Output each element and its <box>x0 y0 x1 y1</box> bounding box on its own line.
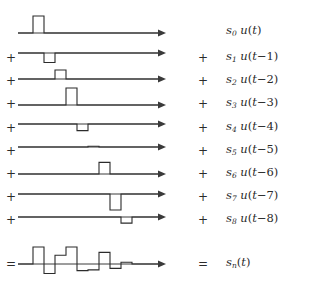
term-func-3: u <box>240 95 247 109</box>
right-operator-sum: = <box>196 258 210 270</box>
term-index-3: 3 <box>232 101 237 110</box>
term-shift-1: 1 <box>267 49 274 63</box>
waveform-row-0 <box>18 8 166 40</box>
pulse-row-8 <box>18 217 158 223</box>
term-label-8: s8 u(t−8) <box>226 213 278 225</box>
left-operator-row-4: + <box>4 122 18 134</box>
term-index-4: 4 <box>232 125 237 134</box>
axis-arrowhead-row-5 <box>158 144 166 151</box>
axis-arrowhead-row-6 <box>158 171 166 178</box>
waveform-row-8 <box>18 211 166 231</box>
axis-arrowhead-row-0 <box>158 30 166 37</box>
right-operator-row-5: + <box>196 145 210 157</box>
term-func-0: u <box>240 23 247 37</box>
right-operator-row-1: + <box>196 52 210 64</box>
term-label-0: s0 u(t) <box>226 25 261 37</box>
right-operator-row-7: + <box>196 191 210 203</box>
term-label-1: s1 u(t−1) <box>226 51 278 63</box>
right-operator-row-8: + <box>196 214 210 226</box>
pulse-row-2 <box>18 70 158 79</box>
left-operator-row-6: + <box>4 168 18 180</box>
term-func-5: u <box>240 142 247 156</box>
term-func-1: u <box>240 49 247 63</box>
term-label-5: s5 u(t−5) <box>226 144 278 156</box>
term-shift-4: 4 <box>267 119 274 133</box>
left-operator-row-1: + <box>4 52 18 64</box>
term-shift-6: 6 <box>267 165 274 179</box>
right-operator-row-4: + <box>196 122 210 134</box>
left-operator-row-5: + <box>4 145 18 157</box>
term-shift-8: 8 <box>267 211 274 225</box>
term-func-2: u <box>240 72 247 86</box>
term-label-7: s7 u(t−7) <box>226 190 278 202</box>
term-index-1: 1 <box>232 55 237 64</box>
term-shift-3: 3 <box>267 95 274 109</box>
pulse-row-6 <box>18 162 158 174</box>
term-label-3: s3 u(t−3) <box>226 97 278 109</box>
term-index-7: 7 <box>232 194 237 203</box>
axis-arrowhead-sum <box>158 261 166 268</box>
right-operator-row-3: + <box>196 98 210 110</box>
term-func-6: u <box>240 165 247 179</box>
term-index-5: 5 <box>232 148 237 157</box>
waveform-sum <box>18 243 166 285</box>
term-index-sum: n <box>232 261 237 270</box>
term-label-sum: sn(t) <box>226 257 250 269</box>
term-func-4: u <box>240 119 247 133</box>
pulse-row-4 <box>18 124 158 131</box>
pulse-sum-staircase <box>18 247 158 274</box>
waveform-row-6 <box>18 157 166 183</box>
right-operator-row-6: + <box>196 168 210 180</box>
left-operator-row-8: + <box>4 214 18 226</box>
term-func-7: u <box>240 188 247 202</box>
axis-arrowhead-row-4 <box>158 121 166 128</box>
waveform-row-4 <box>18 118 166 138</box>
pulse-row-3 <box>18 88 158 105</box>
waveform-row-3 <box>18 80 166 112</box>
term-func-8: u <box>240 211 247 225</box>
right-operator-row-2: + <box>196 75 210 87</box>
term-label-4: s4 u(t−4) <box>226 121 278 133</box>
term-label-2: s2 u(t−2) <box>226 74 278 86</box>
left-operator-sum: = <box>4 258 18 270</box>
term-shift-7: 7 <box>267 188 274 202</box>
left-operator-row-2: + <box>4 75 18 87</box>
term-shift-2: 2 <box>267 72 274 86</box>
term-index-0: 0 <box>232 29 237 38</box>
term-index-2: 2 <box>232 78 237 87</box>
pulse-row-0 <box>18 16 158 33</box>
term-label-6: s6 u(t−6) <box>226 167 278 179</box>
term-shift-5: 5 <box>267 142 274 156</box>
pulse-row-5 <box>18 146 158 147</box>
axis-arrowhead-row-1 <box>158 50 166 57</box>
left-operator-row-7: + <box>4 191 18 203</box>
pulse-row-7 <box>18 194 158 210</box>
axis-arrowhead-row-3 <box>158 102 166 109</box>
term-index-6: 6 <box>232 171 237 180</box>
left-operator-row-3: + <box>4 98 18 110</box>
figure-canvas: + + + + + + + + = <box>0 0 316 291</box>
axis-arrowhead-row-7 <box>158 191 166 198</box>
term-index-8: 8 <box>232 217 237 226</box>
axis-arrowhead-row-8 <box>158 214 166 221</box>
